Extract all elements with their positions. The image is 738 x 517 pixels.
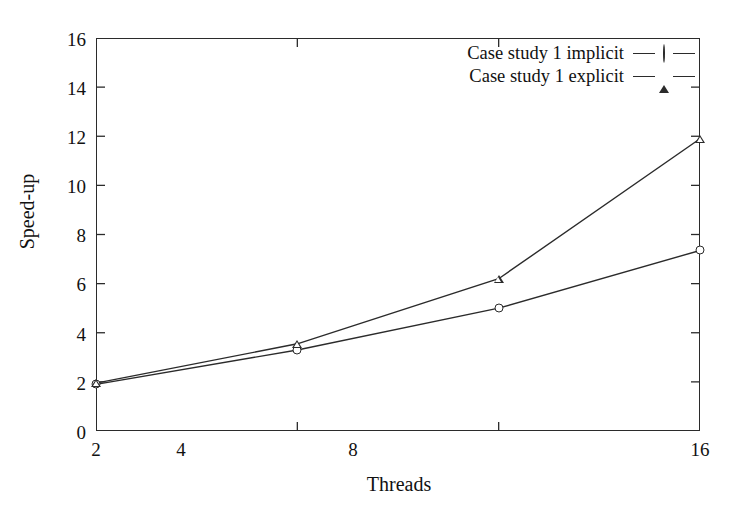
triangle-marker-icon	[695, 135, 705, 143]
legend-entry-explicit: Case study 1 explicit	[455, 65, 695, 88]
y-tick-label: 4	[46, 325, 86, 344]
x-tick-label: 2	[76, 440, 116, 459]
speedup-line-chart: 16 14 12 10 8 6 4 2 0 2 4 8 16 Threads S…	[0, 0, 738, 517]
circle-marker-icon	[663, 45, 665, 63]
y-tick-label: 2	[46, 374, 86, 393]
legend-label: Case study 1 implicit	[467, 43, 624, 64]
x-tick-label: 16	[680, 440, 720, 459]
triangle-marker-icon	[659, 68, 669, 86]
y-tick-label: 10	[46, 177, 86, 196]
y-tick-label: 14	[46, 79, 86, 98]
circle-marker-icon	[494, 304, 503, 313]
legend-marker-sample	[633, 47, 695, 61]
legend-line-right	[673, 53, 695, 54]
legend-line-right	[673, 76, 695, 77]
legend-label: Case study 1 explicit	[469, 66, 624, 87]
x-axis-title: Threads	[0, 473, 738, 496]
x-axis-title-text: Threads	[367, 473, 431, 495]
y-tick-label: 8	[46, 226, 86, 245]
x-tick-label: 4	[161, 440, 201, 459]
y-tick-label: 12	[46, 128, 86, 147]
y-tick-label: 16	[46, 30, 86, 49]
triangle-marker-icon	[91, 379, 101, 387]
y-tick-label: 6	[46, 275, 86, 294]
legend: Case study 1 implicit Case study 1 expli…	[455, 42, 695, 88]
legend-line-left	[633, 53, 655, 54]
plot-area	[96, 38, 700, 431]
y-axis-tick-labels: 16 14 12 10 8 6 4 2 0	[42, 0, 86, 393]
legend-entry-implicit: Case study 1 implicit	[455, 42, 695, 65]
triangle-marker-icon	[494, 275, 504, 283]
legend-marker-sample	[633, 70, 695, 84]
y-axis-title: Speed-up	[16, 152, 39, 272]
triangle-marker-icon	[292, 340, 302, 348]
x-tick-label: 8	[333, 440, 373, 459]
circle-marker-icon	[696, 246, 705, 255]
legend-line-left	[633, 76, 655, 77]
